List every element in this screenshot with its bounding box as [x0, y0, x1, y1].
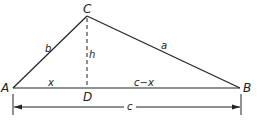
vertex-label-b: B	[243, 81, 251, 95]
arrowhead-left-icon	[14, 105, 22, 110]
side-label-b: b	[45, 43, 51, 54]
side-a	[87, 16, 240, 88]
segment-label-x: x	[47, 77, 54, 88]
altitude-label-h: h	[89, 49, 95, 60]
vertex-label-a: A	[0, 81, 9, 95]
arrowhead-right-icon	[232, 105, 240, 110]
dimension-label-c: c	[127, 101, 133, 112]
triangle-diagram: A B C D b a h x c−x c	[0, 0, 257, 127]
vertex-label-d: D	[83, 90, 92, 104]
vertex-label-c: C	[83, 2, 92, 16]
side-label-a: a	[161, 40, 167, 51]
segment-label-c-minus-x: c−x	[134, 77, 154, 88]
